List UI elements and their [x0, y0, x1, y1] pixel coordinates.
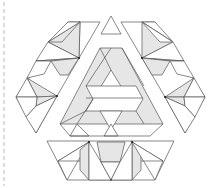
top-triangle	[101, 16, 121, 34]
hexagon-puzzle-figure	[0, 0, 213, 188]
bottom-band	[47, 141, 174, 181]
